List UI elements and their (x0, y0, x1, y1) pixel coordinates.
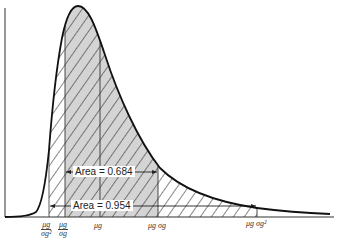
tick-den: σg² (41, 230, 51, 238)
tick-label-mu-times-sigma2: μg σg² (246, 220, 266, 228)
tick-label-mu-times-sigma: μg σg (148, 222, 166, 230)
tick-label-mu: μg (94, 222, 102, 230)
tick-label-mu-over-sigma2: μg σg² (41, 221, 51, 238)
tick-label-mu-over-sigma: μg σg (58, 221, 68, 238)
hatched-region-954 (49, 0, 257, 217)
tick-den: σg (58, 230, 68, 238)
lognormal-distribution-diagram (0, 0, 339, 252)
area-label-954: Area = 0.954 (71, 200, 133, 211)
area-label-684: Area = 0.684 (73, 166, 135, 177)
